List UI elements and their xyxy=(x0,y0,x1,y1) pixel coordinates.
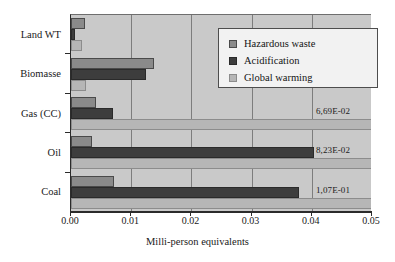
gridline xyxy=(131,15,132,211)
overflow-value-label: 6,69E-02 xyxy=(316,106,350,116)
category-label: Coal xyxy=(41,186,61,197)
x-axis-tick-label: 0.01 xyxy=(121,215,139,226)
x-axis-tick-label: 0.00 xyxy=(61,215,79,226)
bar-hazardous-waste xyxy=(71,18,85,29)
bar-acidification xyxy=(71,147,314,158)
bar-global-warming xyxy=(71,119,371,130)
legend-swatch-icon xyxy=(229,57,237,65)
x-axis-title: Milli-person equivalents xyxy=(0,236,395,247)
x-axis-tick-label: 0.04 xyxy=(302,215,320,226)
bar-hazardous-waste xyxy=(71,58,154,69)
category-label: Biomasse xyxy=(20,68,61,79)
x-axis-tick-label: 0.02 xyxy=(182,215,200,226)
legend-label: Hazardous waste xyxy=(244,38,315,49)
bar-acidification xyxy=(71,187,299,198)
bar-global-warming xyxy=(71,198,371,209)
x-axis-line xyxy=(70,211,372,213)
legend-label: Global warming xyxy=(244,72,313,83)
bar-global-warming xyxy=(71,80,86,91)
legend-swatch-icon xyxy=(229,40,237,48)
legend-item-hazardous-waste: Hazardous waste xyxy=(229,35,377,52)
overflow-value-label: 1,07E-01 xyxy=(316,185,350,195)
bar-hazardous-waste xyxy=(71,136,92,147)
chart-legend: Hazardous waste Acidification Global war… xyxy=(218,28,378,88)
bar-acidification xyxy=(71,108,113,119)
y-axis-tick xyxy=(65,172,70,173)
x-axis-tick-label: 0.05 xyxy=(362,215,380,226)
bar-global-warming xyxy=(71,40,82,51)
category-label: Gas (CC) xyxy=(21,107,61,118)
bar-acidification xyxy=(71,69,146,80)
overflow-value-label: 8,23E-02 xyxy=(316,145,350,155)
gridline xyxy=(191,15,192,211)
y-axis-tick xyxy=(65,93,70,94)
category-label: Oil xyxy=(48,146,61,157)
legend-item-acidification: Acidification xyxy=(229,52,377,69)
y-axis-tick xyxy=(65,132,70,133)
bar-hazardous-waste xyxy=(71,97,96,108)
legend-item-global-warming: Global warming xyxy=(229,69,377,86)
category-label: Land WT xyxy=(21,28,61,39)
y-axis-tick xyxy=(65,53,70,54)
x-axis-tick-label: 0.03 xyxy=(242,215,260,226)
legend-swatch-icon xyxy=(229,74,237,82)
bar-hazardous-waste xyxy=(71,176,114,187)
bar-global-warming xyxy=(71,158,371,169)
legend-label: Acidification xyxy=(244,55,299,66)
bar-chart: 0.000.010.020.030.040.05 Land WTBiomasse… xyxy=(0,0,395,262)
bar-acidification xyxy=(71,29,75,40)
